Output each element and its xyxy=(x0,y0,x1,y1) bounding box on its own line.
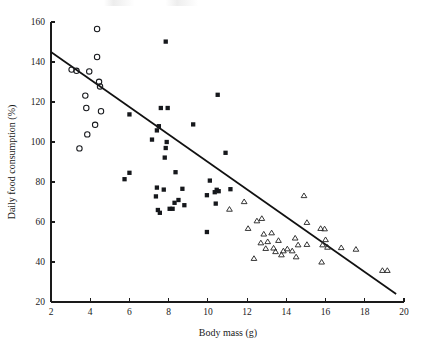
data-point-open-triangle xyxy=(251,256,257,261)
data-point-open-triangle xyxy=(276,238,282,243)
data-point-filled-square xyxy=(170,207,174,211)
y-axis-title: Daily food consumption (%) xyxy=(6,105,18,220)
y-tick-label: 60 xyxy=(36,217,46,227)
data-point-open-triangle xyxy=(295,242,301,247)
y-tick-label: 20 xyxy=(36,297,46,307)
data-point-filled-square xyxy=(173,170,177,174)
data-point-open-circle xyxy=(94,54,99,59)
data-point-open-triangle xyxy=(323,237,329,242)
data-point-open-circle xyxy=(85,132,90,137)
x-axis-ticks: 2468101214161820 xyxy=(49,298,409,317)
y-tick-label: 40 xyxy=(36,257,46,267)
data-point-filled-square xyxy=(127,171,131,175)
data-point-open-triangle xyxy=(265,239,271,244)
y-tick-label: 160 xyxy=(31,17,46,27)
data-point-filled-square xyxy=(217,189,221,193)
data-point-filled-square xyxy=(172,201,176,205)
data-point-open-circle xyxy=(87,69,92,74)
x-tick-label: 6 xyxy=(127,307,132,317)
data-point-filled-square xyxy=(176,198,180,202)
x-tick-label: 2 xyxy=(49,307,54,317)
data-point-open-triangle xyxy=(227,207,233,212)
data-point-filled-square xyxy=(162,187,166,191)
data-point-filled-square xyxy=(165,140,169,144)
data-point-open-triangle xyxy=(269,230,275,235)
data-point-open-triangle xyxy=(384,268,390,273)
data-point-filled-square xyxy=(127,112,131,116)
x-tick-label: 10 xyxy=(203,307,213,317)
data-point-filled-square xyxy=(208,178,212,182)
y-tick-label: 80 xyxy=(36,177,46,187)
data-point-filled-square xyxy=(150,137,154,141)
data-point-open-triangle xyxy=(258,240,264,245)
scatter-plot-figure: 20406080100120140160 2468101214161820 Bo… xyxy=(0,0,425,344)
data-point-filled-square xyxy=(159,106,163,110)
data-point-open-circle xyxy=(98,109,103,114)
data-point-open-triangle xyxy=(241,199,247,204)
data-point-filled-square xyxy=(205,230,209,234)
data-point-filled-square xyxy=(164,39,168,43)
y-tick-label: 140 xyxy=(31,57,46,67)
data-point-filled-square xyxy=(154,194,158,198)
data-point-open-circle xyxy=(77,146,82,151)
data-point-open-circle xyxy=(92,122,97,127)
data-point-open-triangle xyxy=(338,245,344,250)
data-point-open-triangle xyxy=(245,226,251,231)
data-point-filled-square xyxy=(155,128,159,132)
regression-line xyxy=(51,52,396,294)
data-point-filled-square xyxy=(166,106,170,110)
data-point-open-triangle xyxy=(263,246,269,251)
data-point-filled-square xyxy=(223,151,227,155)
data-point-open-triangle xyxy=(261,231,267,236)
data-point-open-triangle xyxy=(319,259,325,264)
data-point-open-circle xyxy=(83,93,88,98)
data-point-open-triangle xyxy=(292,235,298,240)
x-tick-label: 18 xyxy=(360,307,370,317)
data-point-filled-square xyxy=(164,146,168,150)
x-tick-label: 16 xyxy=(321,307,331,317)
data-point-filled-square xyxy=(228,187,232,191)
data-point-filled-square xyxy=(122,177,126,181)
data-point-open-triangle xyxy=(301,193,307,198)
y-tick-label: 100 xyxy=(31,137,46,147)
data-point-open-triangle xyxy=(293,254,299,259)
plot-canvas: 20406080100120140160 2468101214161820 Bo… xyxy=(0,0,425,344)
x-tick-label: 4 xyxy=(88,307,93,317)
data-point-filled-square xyxy=(216,93,220,97)
x-axis-title: Body mass (g) xyxy=(199,327,257,339)
data-point-filled-square xyxy=(158,211,162,215)
data-point-filled-square xyxy=(163,155,167,159)
data-point-filled-square xyxy=(182,203,186,207)
data-point-open-triangle xyxy=(284,246,290,251)
data-point-filled-square xyxy=(214,201,218,205)
data-point-filled-square xyxy=(157,124,161,128)
x-tick-label: 8 xyxy=(166,307,171,317)
series-filled-squares xyxy=(122,39,232,234)
data-point-open-triangle xyxy=(353,247,359,252)
series-open-circles xyxy=(69,26,104,151)
axes-group xyxy=(51,22,404,302)
data-point-open-triangle xyxy=(304,242,310,247)
x-tick-label: 20 xyxy=(399,307,409,317)
x-tick-label: 12 xyxy=(242,307,252,317)
data-point-filled-square xyxy=(155,185,159,189)
data-point-filled-square xyxy=(205,193,209,197)
data-point-filled-square xyxy=(191,122,195,126)
data-point-open-triangle xyxy=(259,216,265,221)
data-point-open-triangle xyxy=(304,220,310,225)
data-point-filled-square xyxy=(180,187,184,191)
x-tick-label: 14 xyxy=(282,307,292,317)
y-tick-label: 120 xyxy=(31,97,46,107)
data-point-open-circle xyxy=(94,26,99,31)
data-point-open-circle xyxy=(84,105,89,110)
regression-line-group xyxy=(51,52,396,294)
